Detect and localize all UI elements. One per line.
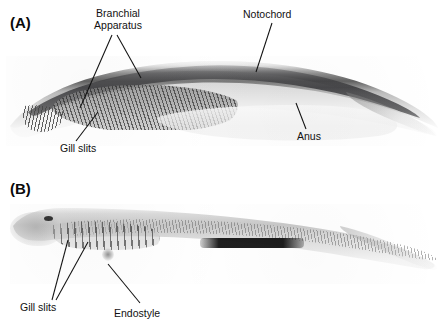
gut-band-b — [200, 238, 304, 248]
endostyle-structure-b — [102, 248, 114, 261]
pigment-spot-b — [44, 216, 53, 221]
annotation-gill-slits-a: Gill slits — [60, 143, 96, 155]
annotation-gill-slits-b: Gill slits — [20, 302, 56, 314]
panel-label-a: (A) — [10, 14, 31, 31]
panel-a: (A) Branchial Apparatus Gill slits Notoc… — [0, 0, 446, 162]
annotation-branchial-line1: Branchial — [78, 8, 158, 20]
specimen-image-a — [6, 56, 438, 146]
panel-b: (B) Gill slits Endostyle — [0, 162, 446, 324]
panel-label-b: (B) — [10, 180, 31, 197]
head-b — [10, 212, 62, 246]
annotation-endostyle: Endostyle — [114, 308, 160, 320]
annotation-notochord: Notochord — [243, 9, 291, 21]
annotation-anus: Anus — [297, 131, 321, 143]
specimen-image-b — [10, 204, 438, 284]
annotation-branchial-line2: Apparatus — [78, 20, 158, 32]
figure-plate: (A) Branchial Apparatus Gill slits Notoc… — [0, 0, 446, 324]
annotation-branchial-apparatus: Branchial Apparatus — [78, 8, 158, 31]
